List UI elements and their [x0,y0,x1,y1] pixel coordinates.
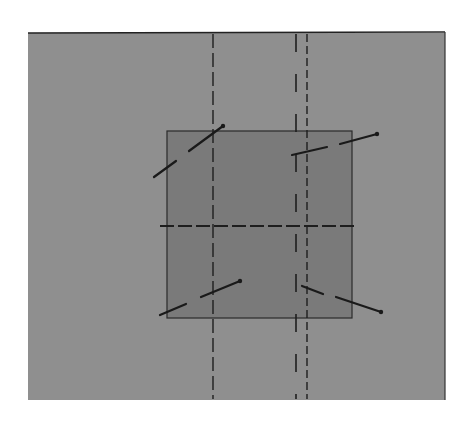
outer-panel-top-border [28,32,445,33]
pin-head-icon [221,124,225,128]
pin-head-icon [375,132,379,136]
pin-head-icon [238,279,242,283]
pin-head-icon [379,310,383,314]
diagram-canvas [0,0,476,422]
inner-square-plate [167,131,352,318]
